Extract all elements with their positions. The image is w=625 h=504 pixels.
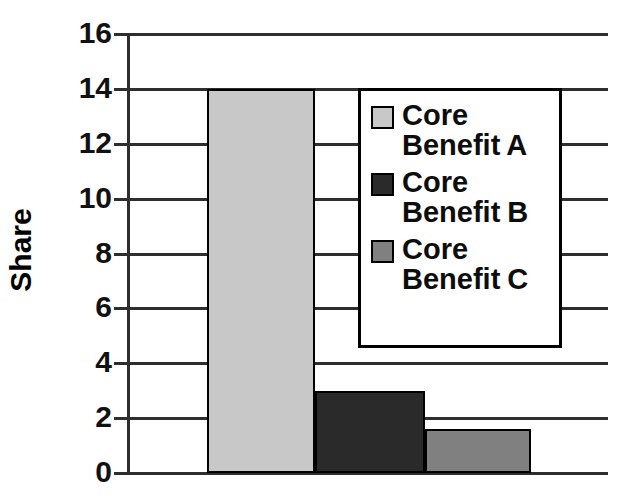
legend-label-line1: Core [402, 99, 468, 131]
bar-core-benefit-c [425, 429, 531, 473]
legend-item: CoreBenefit C [371, 235, 559, 294]
y-axis-tick-mark [114, 472, 127, 475]
legend-label-line1: Core [402, 233, 468, 265]
legend-label: CoreBenefit C [402, 235, 552, 294]
bar-core-benefit-b [315, 391, 425, 473]
y-axis-tick-mark [114, 33, 127, 36]
bar-core-benefit-a [207, 89, 315, 473]
y-axis-tick-label: 4 [44, 347, 112, 377]
legend-label-line1: Core [402, 166, 468, 198]
legend-label: CoreBenefit A [402, 101, 552, 160]
legend-swatch-icon [371, 106, 394, 129]
y-axis-tick-label: 12 [44, 128, 112, 158]
y-axis-tick-mark [114, 362, 127, 365]
y-axis-tick-label: 10 [44, 183, 112, 213]
legend: CoreBenefit ACoreBenefit BCoreBenefit C [358, 88, 562, 348]
legend-label-line2: Benefit C [402, 265, 552, 295]
y-axis-tick-label: 6 [44, 292, 112, 322]
y-axis-tick-mark [114, 253, 127, 256]
y-axis-tick-label: 16 [44, 18, 112, 48]
bar-chart: Share 1614121086420 CoreBenefit ACoreBen… [0, 0, 625, 504]
legend-label-line2: Benefit A [402, 131, 552, 161]
legend-swatch-icon [371, 173, 394, 196]
y-axis-tick-mark [114, 417, 127, 420]
y-axis-tick-mark [114, 143, 127, 146]
y-axis-tick-label: 0 [44, 457, 112, 487]
legend-item: CoreBenefit B [371, 168, 559, 227]
gridline [127, 33, 608, 36]
legend-label-line2: Benefit B [402, 198, 552, 228]
y-axis-tick-label: 14 [44, 73, 112, 103]
y-axis-tick-labels: 1614121086420 [44, 0, 112, 504]
gridline [127, 362, 608, 365]
legend-item: CoreBenefit A [371, 101, 559, 160]
legend-swatch-icon [371, 240, 394, 263]
y-axis-tick-mark [114, 307, 127, 310]
legend-label: CoreBenefit B [402, 168, 552, 227]
y-axis-tick-label: 2 [44, 402, 112, 432]
y-axis-tick-mark [114, 198, 127, 201]
y-axis-tick-mark [114, 88, 127, 91]
y-axis-tick-label: 8 [44, 238, 112, 268]
y-axis-title: Share [4, 180, 44, 320]
